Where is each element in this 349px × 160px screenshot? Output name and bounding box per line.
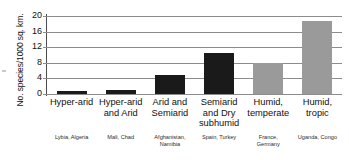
x-axis-category-labels: Hyper-aridHyper-aridand AridArid andSemi… [47,97,342,131]
y-axis-tick-label: 4 [22,73,42,82]
country-label: Uganda, Congo [287,134,348,141]
y-axis-tick-label: 0 [22,89,42,98]
category-label-line: tropic [287,108,348,119]
gridline [47,16,342,17]
country-label-line: Germany [238,141,299,148]
bar [106,90,136,94]
bar-chart-figure: No. species/1000 sq. km. 048121620 Hyper… [0,0,349,160]
plot-area [47,16,342,94]
scan-artifact [2,70,6,72]
bar [57,91,87,95]
category-label: Humid,tropic [287,97,348,118]
y-axis-tick-mark [43,16,47,17]
bar [253,63,283,94]
y-axis-tick-mark [43,47,47,48]
gridline [47,78,342,79]
x-axis-country-labels: Lybia, AlgeriaMali, ChadAfghanistan,Nami… [47,134,342,158]
y-axis-tick-label: 8 [22,58,42,67]
country-label-line: Namibia [139,141,200,148]
gridline [47,32,342,33]
y-axis-tick-mark [43,94,47,95]
bar [302,21,332,94]
y-axis-tick-labels: 048121620 [20,0,42,160]
y-axis-tick-label: 12 [22,42,42,51]
bar [155,75,185,95]
gridline [47,47,342,48]
country-label-line: Uganda, Congo [287,134,348,141]
y-axis-tick-label: 20 [22,11,42,20]
category-label-line: Humid, [287,97,348,108]
y-axis-tick-mark [43,32,47,33]
y-axis-tick-mark [43,78,47,79]
category-label-line: subhumid [189,118,250,129]
y-axis-tick-mark [43,63,47,64]
y-axis-tick-label: 16 [22,27,42,36]
gridline [47,94,342,95]
bar [204,53,234,94]
gridline [47,63,342,64]
